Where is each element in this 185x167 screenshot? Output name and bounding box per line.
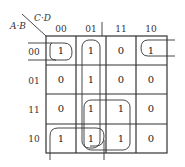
cell: 0 xyxy=(58,103,64,114)
cell: 1 xyxy=(58,45,64,56)
row-header: 00 xyxy=(28,47,40,57)
cell: 1 xyxy=(118,133,124,144)
cell: 1 xyxy=(88,45,94,56)
row-header: 01 xyxy=(28,76,39,86)
col-header: 11 xyxy=(115,24,126,34)
row-header: 11 xyxy=(28,105,39,115)
cell: 1 xyxy=(88,103,94,114)
cell: 0 xyxy=(58,74,64,85)
cell: 0 xyxy=(148,133,154,144)
col-header: 00 xyxy=(55,24,67,34)
cell: 0 xyxy=(118,45,124,56)
col-var-label: C·D xyxy=(34,13,51,23)
cell: 1 xyxy=(88,133,94,144)
cell: 1 xyxy=(118,103,124,114)
cell: 0 xyxy=(148,103,154,114)
cell: 1 xyxy=(88,74,94,85)
group-loop-corner-right xyxy=(141,40,175,56)
row-header: 10 xyxy=(28,134,40,144)
row-var-label: A·B xyxy=(9,21,26,31)
karnaugh-map: C·D A·B 00 01 11 10 00 01 11 10 1 1 0 1 … xyxy=(0,0,185,167)
col-header: 01 xyxy=(85,24,96,34)
col-header: 10 xyxy=(145,24,157,34)
cell: 0 xyxy=(148,74,154,85)
cell: 1 xyxy=(148,45,154,56)
cell: 0 xyxy=(118,74,124,85)
cell: 1 xyxy=(58,133,64,144)
